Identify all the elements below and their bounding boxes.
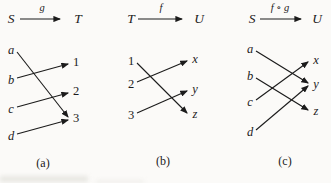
arrow-3-to-y	[137, 91, 187, 113]
right-element-x: x	[191, 52, 198, 66]
right-element-z: z	[313, 104, 319, 118]
left-element-d: d	[247, 125, 254, 139]
arrow-d-to-y	[256, 86, 308, 130]
left-element-d: d	[8, 129, 15, 143]
set-label-from: S	[249, 11, 256, 26]
arrow-a-to-3	[17, 52, 68, 117]
arrow-c-to-2	[17, 93, 68, 107]
arrow-d-to-3	[17, 120, 68, 134]
left-element-3: 3	[128, 108, 134, 122]
right-element-1: 1	[73, 55, 79, 69]
caption: (a)	[36, 156, 49, 170]
set-label-from: S	[8, 11, 15, 26]
left-element-1: 1	[128, 54, 134, 68]
right-element-z: z	[192, 107, 198, 121]
left-element-2: 2	[128, 77, 134, 91]
function-composition-figure: S g T abcd123 (a) T f U 123xyz (b) S f ∘…	[0, 0, 331, 183]
elements-and-arrows: 123xyz	[128, 52, 198, 122]
diagram-b: T f U 123xyz (b)	[115, 0, 223, 183]
left-element-b: b	[247, 69, 253, 83]
function-label: g	[39, 2, 44, 13]
scan-artifact	[0, 176, 88, 182]
right-element-y: y	[311, 77, 319, 91]
scan-artifact	[96, 180, 144, 183]
elements-and-arrows: abcd123	[8, 43, 79, 143]
arrow-a-to-y	[256, 51, 308, 83]
left-element-c: c	[247, 95, 253, 109]
arrow-2-to-x	[137, 61, 187, 82]
right-element-y: y	[190, 82, 198, 96]
caption: (b)	[156, 154, 170, 168]
right-element-2: 2	[73, 84, 79, 98]
set-label-to: U	[194, 11, 205, 26]
caption: (c)	[278, 154, 291, 168]
function-label: f ∘ g	[271, 2, 290, 13]
set-label-to: U	[312, 11, 323, 26]
function-label: f	[160, 2, 165, 13]
left-element-c: c	[8, 102, 14, 116]
left-element-b: b	[8, 73, 14, 87]
diagram-a: S g T abcd123 (a)	[0, 0, 112, 183]
left-element-a: a	[247, 42, 253, 56]
right-element-3: 3	[73, 111, 79, 125]
set-label-to: T	[74, 11, 83, 26]
set-label-from: T	[127, 11, 136, 26]
diagram-c: S f ∘ g U abcdxyz (c)	[228, 0, 331, 183]
arrow-b-to-1	[17, 64, 68, 78]
elements-and-arrows: abcdxyz	[247, 42, 319, 139]
right-element-x: x	[312, 53, 319, 67]
left-element-a: a	[8, 43, 14, 57]
arrow-1-to-z	[137, 63, 187, 113]
